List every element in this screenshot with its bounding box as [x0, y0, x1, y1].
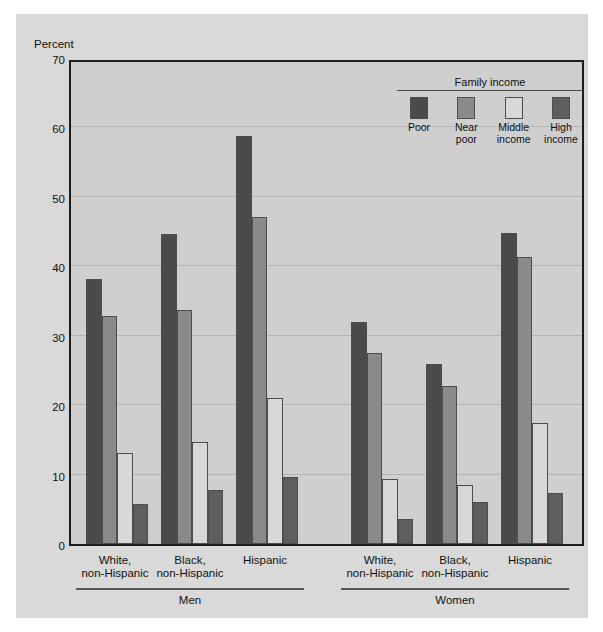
y-axis-tick-label: 50	[33, 193, 65, 205]
bar	[501, 233, 517, 544]
x-axis-group-label: Hispanic	[210, 554, 320, 567]
legend-item[interactable]: High income	[539, 97, 583, 145]
bar	[252, 217, 268, 544]
legend-swatch	[505, 97, 523, 119]
bar	[236, 136, 252, 544]
bar	[117, 453, 133, 544]
bar	[548, 493, 564, 544]
bar	[382, 479, 398, 544]
legend-swatch	[410, 97, 428, 119]
y-axis-ticks: 010203040506070	[24, 60, 65, 546]
bar	[86, 279, 102, 544]
x-axis-supergroup-rule	[76, 588, 304, 590]
y-axis-tick-label: 10	[33, 471, 65, 483]
bar	[177, 310, 193, 544]
bar	[208, 490, 224, 544]
x-axis-supergroup-label: Women	[341, 594, 569, 606]
bar	[133, 504, 149, 544]
bar	[283, 477, 299, 544]
bar	[102, 316, 118, 544]
chart-figure: Percent 010203040506070 White, non-Hispa…	[16, 14, 588, 618]
y-axis-title: Percent	[34, 38, 74, 50]
gridline	[71, 196, 582, 197]
bar	[442, 386, 458, 544]
x-axis-group-label: Hispanic	[475, 554, 585, 567]
legend-title: Family income	[397, 76, 583, 88]
y-axis-tick-label: 30	[33, 332, 65, 344]
x-axis-supergroup-label: Men	[76, 594, 304, 606]
y-axis-tick-label: 0	[33, 540, 65, 552]
legend-divider	[397, 90, 583, 91]
bar	[457, 485, 473, 544]
y-axis-tick-label: 70	[33, 54, 65, 66]
bar	[473, 502, 489, 544]
legend-item[interactable]: Middle income	[492, 97, 536, 145]
y-axis-tick-label: 20	[33, 401, 65, 413]
y-axis-tick-label: 40	[33, 262, 65, 274]
bar	[532, 423, 548, 544]
bar	[192, 442, 208, 544]
legend-item[interactable]: Near poor	[444, 97, 488, 145]
legend-label: Middle income	[492, 122, 536, 145]
bar	[426, 364, 442, 544]
bar	[351, 322, 367, 544]
bar	[517, 257, 533, 544]
bar	[267, 398, 283, 544]
x-axis-supergroup-rule	[341, 588, 569, 590]
legend-swatch	[457, 97, 475, 119]
bar	[367, 353, 383, 544]
legend-item[interactable]: Poor	[397, 97, 441, 145]
legend-items: PoorNear poorMiddle incomeHigh income	[397, 97, 583, 145]
y-axis-tick-label: 60	[33, 123, 65, 135]
legend-label: High income	[539, 122, 583, 145]
bar	[161, 234, 177, 544]
legend-swatch	[552, 97, 570, 119]
chart-legend: Family income PoorNear poorMiddle income…	[397, 76, 583, 145]
bar	[398, 519, 414, 544]
legend-label: Poor	[397, 122, 441, 134]
legend-label: Near poor	[444, 122, 488, 145]
